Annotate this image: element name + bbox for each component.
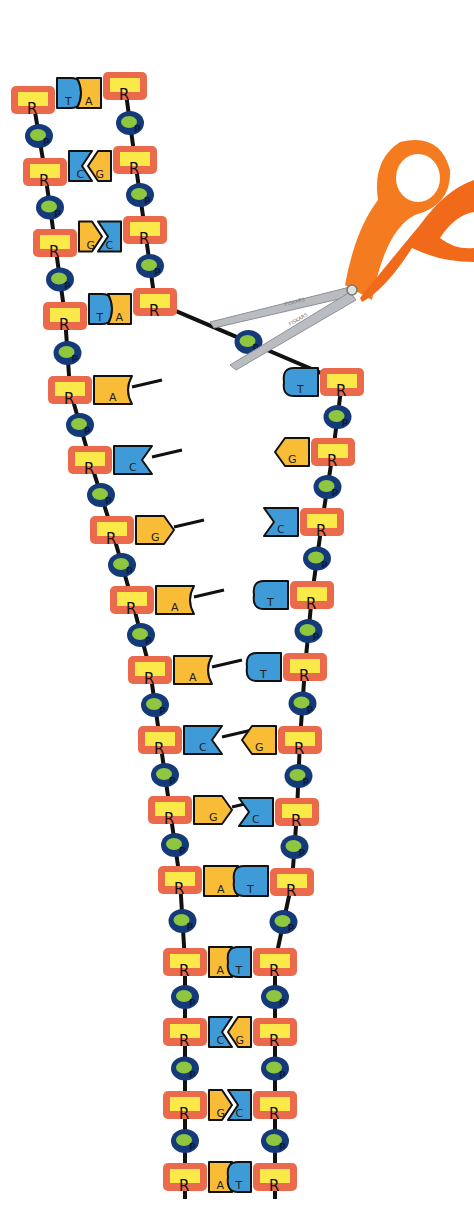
phosphate-label: P [84,426,91,436]
sugar-node: R [103,72,147,104]
phosphate-node: P [281,835,309,859]
sugar-label: R [164,810,174,828]
hydrogen-stub [194,590,224,597]
sugar-node: R [128,656,172,688]
base-C: C [264,508,298,536]
phosphate-node: P [303,547,331,571]
sugar-phosphate-nodes: PRPRPRPRPRPRPRPRPRPRPRPRPRPRPRRPRPRPRPRP… [11,72,364,1195]
base-label: G [288,453,297,466]
sugar-node: R [320,368,364,400]
base-G: G [88,151,111,181]
base-C: C [184,726,222,754]
sugar-node: R [163,1091,207,1123]
base-label: A [85,95,93,108]
base-label: T [64,95,72,108]
hydrogen-stub [212,660,242,667]
base-A: A [174,656,212,684]
phosphate-node: P [324,405,352,429]
base-label: C [77,168,85,181]
phosphate-node: P [127,623,155,647]
phosphate-label: P [144,196,151,206]
phosphate-label: P [332,488,339,498]
phosphate-label: P [189,1070,196,1080]
sugar-node: R [290,581,334,613]
sugar-label: R [149,302,159,320]
phosphate-label: P [299,848,306,858]
phosphate-node: P [289,692,317,716]
base-label: G [209,811,218,824]
base-T: T [57,78,81,108]
scissor-finger-hole [396,154,440,202]
base-A: A [94,376,132,404]
phosphate-label: P [134,124,141,134]
base-T: T [228,947,251,977]
phosphate-label: P [279,1070,286,1080]
sugar-label: R [64,390,74,408]
base-C: C [114,446,152,474]
phosphate-node: P [171,1129,199,1153]
base-label: G [236,1034,245,1047]
phosphate-node: P [161,833,189,857]
phosphate-label: P [279,998,286,1008]
phosphate-label: P [342,418,349,428]
base-T: T [228,1162,251,1192]
base-label: C [277,523,285,536]
sugar-node: R [253,1018,297,1050]
phosphate-node: P [171,985,199,1009]
phosphate-node: P [261,985,289,1009]
sugar-node: R [113,146,157,178]
sugar-label: R [327,452,337,470]
base-label: T [235,1179,243,1192]
sugar-label: R [179,962,189,980]
base-label: T [96,311,104,324]
phosphate-label: P [159,706,166,716]
base-T: T [254,581,288,609]
phosphate-node: P [261,1057,289,1081]
sugar-label: R [144,670,154,688]
base-label: T [266,596,274,609]
base-A: A [156,586,194,614]
base-A: A [77,78,101,108]
base-label: A [217,1179,225,1192]
phosphate-label: P [303,777,310,787]
sugar-label: R [154,740,164,758]
hydrogen-stub [132,380,162,387]
sugar-node: R [133,288,177,320]
dna-canvas: TACGGCTAATCGGCATATCGGCATATCGGCAT PRPRPRP… [0,0,474,1228]
sugar-label: R [179,1105,189,1123]
phosphate-label: P [313,632,320,642]
phosphate-label: P [179,846,186,856]
sugar-node: R [283,653,327,685]
phosphate-label: P [279,1142,286,1152]
sugar-label: R [139,230,149,248]
base-A: A [204,866,238,896]
base-G: G [209,1090,232,1120]
sugar-label: R [269,1105,279,1123]
phosphate-label: P [105,496,112,506]
phosphate-label: P [64,281,71,291]
phosphate-node: P [87,483,115,507]
base-G: G [136,516,174,544]
sugar-label: R [84,460,94,478]
dna-diagram: TACGGCTAATCGGCATATCGGCATATCGGCAT PRPRPRP… [0,0,474,1228]
phosphate-label: P [189,1142,196,1152]
phosphate-node: P [169,909,197,933]
phosphate-node: P [36,196,64,220]
phosphate-label: P [154,267,161,277]
phosphate-node: P [261,1129,289,1153]
phosphate-node: P [270,910,298,934]
phosphate-label: P [126,566,133,576]
base-T: T [234,866,268,896]
base-label: C [217,1034,225,1047]
base-G: G [228,1017,251,1047]
sugar-node: R [275,798,319,830]
base-label: C [106,239,114,252]
base-G: G [275,438,309,466]
sugar-label: R [316,522,326,540]
phosphate-node: P [54,341,82,365]
phosphate-label: P [189,998,196,1008]
base-label: A [109,391,117,404]
base-label: C [199,741,207,754]
phosphate-label: P [43,137,50,147]
base-label: C [129,461,137,474]
